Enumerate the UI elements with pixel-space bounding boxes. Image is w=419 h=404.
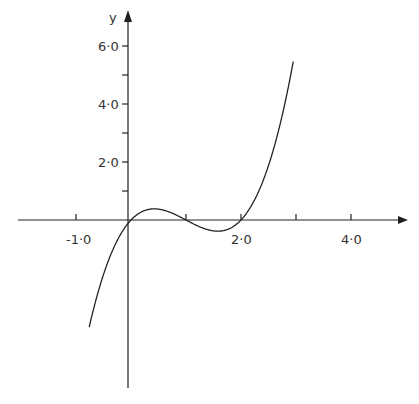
x-tick-label: 2·0	[231, 232, 252, 247]
y-axis-arrow-icon	[124, 10, 132, 22]
tick-labels: -1·02·04·02·04·06·0	[66, 39, 362, 247]
cubic-chart: y -1·02·04·02·04·06·0	[0, 0, 419, 404]
cubic-curve	[89, 62, 293, 328]
y-tick-label: 2·0	[98, 155, 119, 170]
y-tick-label: 6·0	[98, 39, 119, 54]
y-tick-label: 4·0	[98, 97, 119, 112]
ticks	[76, 46, 351, 220]
x-axis-arrow-icon	[398, 216, 408, 224]
x-tick-label: 4·0	[341, 232, 362, 247]
y-axis-label: y	[109, 10, 117, 25]
x-tick-label: -1·0	[66, 232, 91, 247]
